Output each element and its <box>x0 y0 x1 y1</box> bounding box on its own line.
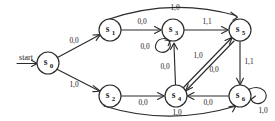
edge-s2-s6-arrowhead <box>229 106 236 112</box>
fsm-diagram: start 0,0 1,0 0,0 1,0 <box>0 0 275 121</box>
edge-s0-s1-label: 0,0 <box>69 36 79 45</box>
node-s5-subscript: 5 <box>242 29 246 37</box>
edge-s1-s5: 1,0 <box>105 3 238 21</box>
node-s2[interactable]: s 2 <box>99 85 121 107</box>
node-s6-subscript: 6 <box>242 95 246 103</box>
edge-s5-s4-label: 0,0 <box>209 65 219 74</box>
edge-s2-s4-label: 0,0 <box>138 98 148 107</box>
node-s3-circle[interactable] <box>162 19 184 41</box>
edge-s6-s4-label: 0,0 <box>203 98 213 107</box>
edge-s1-s3-label: 0,0 <box>137 17 147 26</box>
node-s4-circle[interactable] <box>165 85 187 107</box>
edge-s1-s5-label: 1,0 <box>170 3 180 12</box>
edge-s4-s3-line <box>174 45 176 85</box>
edge-s4-s5: 1,0 <box>183 37 232 88</box>
node-s3-base: s <box>169 24 173 34</box>
edge-s0-s2-label: 1,0 <box>69 80 79 89</box>
node-s1-circle[interactable] <box>99 19 121 41</box>
edge-s4-s5-line <box>183 39 231 88</box>
node-s6-circle[interactable] <box>229 85 251 107</box>
edge-s1-s3: 0,0 <box>122 17 162 33</box>
fsm-canvas: start 0,0 1,0 0,0 1,0 <box>0 0 275 121</box>
node-s3[interactable]: s 3 <box>162 19 184 41</box>
node-s1-base: s <box>106 24 110 34</box>
node-s0-subscript: 0 <box>50 62 54 70</box>
edge-s3-s5: 1,1 <box>185 17 229 33</box>
edge-s3-s5-label: 1,1 <box>202 17 212 26</box>
edge-s2-s4: 0,0 <box>122 93 165 107</box>
edge-s4-s5-label: 1,0 <box>193 51 203 60</box>
start-label: start <box>19 53 34 62</box>
node-s5-circle[interactable] <box>229 19 251 41</box>
edge-s4-s3-label: 0,0 <box>160 62 170 71</box>
node-s1-subscript: 1 <box>112 29 116 37</box>
edge-s2-s6-label: 1,0 <box>172 108 182 117</box>
node-s4-subscript: 4 <box>178 95 182 103</box>
edge-s3-self-label: 0,0 <box>140 42 150 51</box>
edge-s5-s6: 1,1 <box>237 42 254 86</box>
edge-s6-self-loop <box>250 88 267 104</box>
edge-s3-self: 0,0 <box>140 38 170 52</box>
node-s0[interactable]: s 0 <box>37 52 59 74</box>
node-s4-base: s <box>172 90 176 100</box>
edge-s6-self-label: 1,0 <box>258 106 268 115</box>
edge-s0-s2: 1,0 <box>58 70 101 92</box>
node-s0-circle[interactable] <box>37 52 59 74</box>
edge-s0-s1: 0,0 <box>58 35 101 58</box>
edge-s5-s4: 0,0 <box>186 41 234 91</box>
node-s4[interactable]: s 4 <box>165 85 187 107</box>
node-s1[interactable]: s 1 <box>99 19 121 41</box>
node-s6-base: s <box>236 90 240 100</box>
node-s2-circle[interactable] <box>99 85 121 107</box>
node-s2-base: s <box>106 90 110 100</box>
edge-s2-s6: 1,0 <box>104 106 236 118</box>
node-s0-base: s <box>44 57 48 67</box>
start-marker: start <box>17 53 37 67</box>
edge-s6-s4: 0,0 <box>187 93 228 107</box>
node-s5-base: s <box>236 24 240 34</box>
node-s5[interactable]: s 5 <box>229 19 251 41</box>
edge-s5-s6-label: 1,1 <box>244 57 254 66</box>
node-s2-subscript: 2 <box>112 95 116 103</box>
edge-s2-s6-arc <box>104 106 235 116</box>
node-s3-subscript: 3 <box>175 29 179 37</box>
node-s6[interactable]: s 6 <box>229 85 251 107</box>
